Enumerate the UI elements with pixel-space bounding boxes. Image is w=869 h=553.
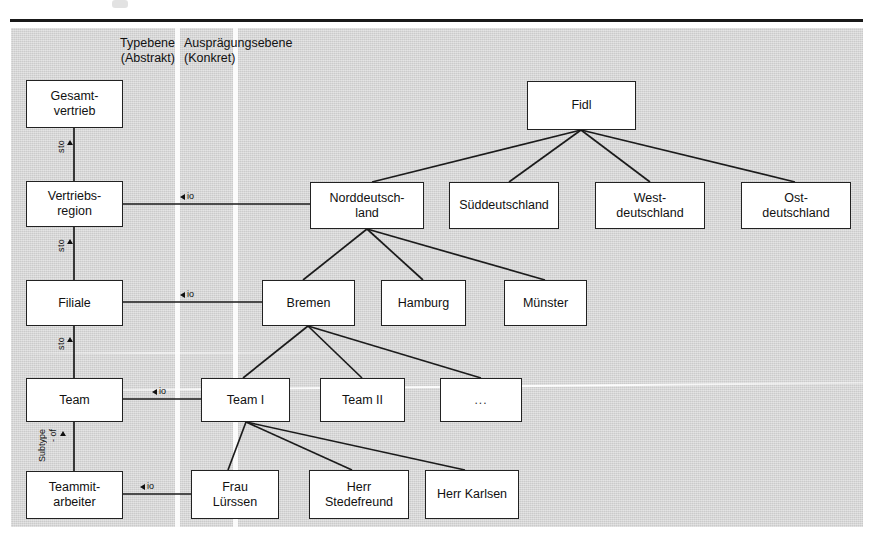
relation-io-text: io: [147, 482, 154, 491]
node-teammitarbeiter[interactable]: Teammit- arbeiter: [26, 471, 123, 519]
node-hamburg[interactable]: Hamburg: [381, 280, 466, 326]
node-team-2[interactable]: Team II: [320, 378, 405, 422]
arrow-up-icon: [67, 337, 73, 342]
figure-canvas: Typebene (Abstrakt) Ausprägungsebene (Ko…: [0, 0, 869, 553]
page-artifact-smudge: [112, 0, 128, 8]
panel-texture: [11, 28, 863, 527]
node-team-ellipsis[interactable]: ...: [440, 378, 522, 422]
relation-sto-text: sto: [57, 239, 66, 252]
relation-label-sto-2: sto: [57, 239, 73, 252]
relation-io-text: io: [187, 192, 194, 201]
node-vertriebsregion[interactable]: Vertriebs- region: [26, 181, 123, 227]
relation-label-io-4: io: [140, 482, 154, 491]
node-herr-karlsen[interactable]: Herr Karlsen: [425, 470, 519, 519]
relation-label-sto-3: sto: [57, 337, 73, 350]
arrow-left-icon: [180, 292, 185, 298]
node-bremen[interactable]: Bremen: [262, 280, 355, 326]
relation-subtype-line2: - of: [49, 429, 58, 442]
arrow-up-icon: [67, 140, 73, 145]
relation-io-text: io: [159, 387, 166, 396]
node-sueddeutschland[interactable]: Süddeutschland: [449, 182, 559, 229]
relation-label-sto-1: sto: [57, 140, 73, 153]
relation-label-io-3: io: [152, 387, 166, 396]
relation-sto-text: sto: [57, 140, 66, 153]
column-divider-type-level: [175, 28, 180, 527]
column-divider-instance-level: [233, 28, 238, 527]
node-team-1[interactable]: Team I: [201, 378, 290, 422]
node-gesamtvertrieb[interactable]: Gesamt- vertrieb: [26, 80, 123, 128]
node-filiale[interactable]: Filiale: [26, 280, 123, 326]
arrow-up-icon: [67, 239, 73, 244]
relation-subtype-line1: Subtype: [38, 429, 47, 462]
relation-sto-text: sto: [57, 337, 66, 350]
diagram-panel: [11, 28, 863, 527]
node-frau-luerssen[interactable]: Frau Lürssen: [191, 470, 279, 519]
node-ostdeutschland[interactable]: Ost- deutschland: [741, 182, 851, 229]
arrow-left-icon: [140, 484, 145, 490]
node-herr-stedefreund[interactable]: Herr Stedefreund: [309, 470, 409, 519]
arrow-left-icon: [152, 389, 157, 395]
relation-label-subtype-of: Subtype - of: [38, 429, 66, 462]
node-westdeutschland[interactable]: West- deutschland: [595, 182, 705, 229]
column-header-instance-level: Ausprägungsebene (Konkret): [184, 36, 344, 66]
column-header-type-level: Typebene (Abstrakt): [103, 36, 175, 66]
arrow-up-icon: [60, 431, 66, 436]
node-fidl[interactable]: Fidl: [527, 81, 636, 130]
relation-label-io-2: io: [180, 290, 194, 299]
relation-label-io-1: io: [180, 192, 194, 201]
page-horizontal-rule: [10, 19, 863, 22]
node-norddeutschland[interactable]: Norddeutsch- land: [310, 182, 424, 229]
node-muenster[interactable]: Münster: [504, 280, 587, 326]
arrow-left-icon: [180, 194, 185, 200]
relation-io-text: io: [187, 290, 194, 299]
node-team[interactable]: Team: [26, 378, 123, 422]
